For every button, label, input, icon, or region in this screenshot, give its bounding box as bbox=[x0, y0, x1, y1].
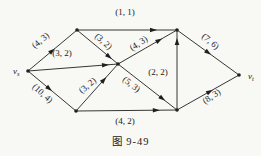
arrowhead-icon bbox=[150, 28, 157, 33]
node-label-vt: vt bbox=[248, 71, 254, 82]
arrowhead-icon bbox=[102, 63, 109, 68]
figure-caption: 图 9-49 bbox=[0, 133, 261, 148]
node-c bbox=[74, 109, 78, 113]
edge-line-m-b bbox=[118, 30, 177, 64]
node-m bbox=[116, 62, 120, 66]
node-d bbox=[175, 108, 179, 112]
arrowhead-icon bbox=[175, 38, 180, 45]
edge-label: (10, 4) bbox=[30, 82, 55, 105]
arrowhead-icon bbox=[153, 108, 160, 113]
arrowhead-icon bbox=[155, 39, 162, 44]
edge-line-c-d bbox=[76, 110, 177, 111]
edge-label: (4, 3) bbox=[30, 30, 51, 50]
figure-9-49: (4, 3)(1, 1)(3, 2)(3, 2)(10, 4)(3, 2)(4,… bbox=[0, 0, 261, 156]
edge-label: (4, 2) bbox=[115, 116, 135, 126]
edge-label: (5, 3) bbox=[121, 74, 143, 94]
edge-label: (8, 3) bbox=[201, 87, 223, 106]
node-vt bbox=[237, 73, 241, 77]
arrowhead-icon bbox=[158, 95, 165, 101]
edge-label: (3, 2) bbox=[77, 75, 98, 95]
edge-label: (7, 6) bbox=[200, 31, 221, 51]
edge-label: (2, 2) bbox=[148, 67, 168, 77]
edge-label: (1, 1) bbox=[115, 7, 135, 17]
edge-label: (3, 2) bbox=[93, 31, 114, 51]
node-b bbox=[175, 28, 179, 32]
node-label-vs: vs bbox=[13, 66, 20, 77]
arrowhead-icon bbox=[204, 49, 211, 55]
edge-label: (3, 2) bbox=[52, 48, 72, 58]
node-a bbox=[75, 28, 79, 32]
edge-label: (4, 3) bbox=[128, 34, 150, 53]
node-vs bbox=[26, 69, 30, 73]
